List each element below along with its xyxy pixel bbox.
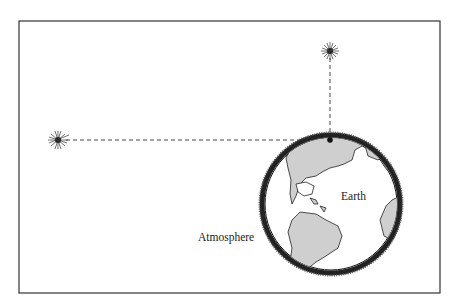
star-overhead-icon: [321, 42, 339, 60]
earth-label: Earth: [341, 190, 366, 202]
atmosphere-label: Atmosphere: [198, 231, 254, 244]
star-horizon-icon: [48, 131, 69, 149]
diagram-canvas: Earth Atmosphere: [0, 0, 457, 307]
observer-point: [327, 137, 333, 143]
